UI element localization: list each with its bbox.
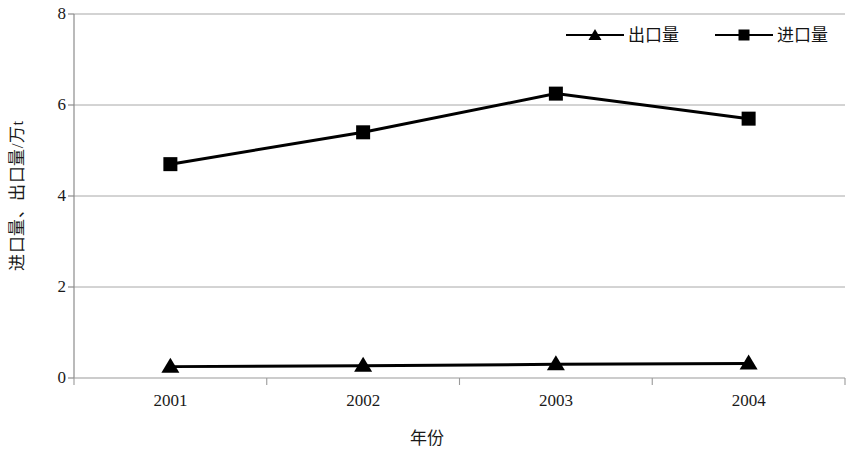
gridlines <box>74 14 845 287</box>
data-series-layer <box>161 87 757 373</box>
data-point-square <box>549 87 563 101</box>
x-axis-title-text: 年份 <box>410 429 444 448</box>
legend-item-import: 进口量 <box>715 26 828 44</box>
chart-legend: 出口量 进口量 <box>566 26 828 44</box>
x-tick-label: 2002 <box>346 392 380 409</box>
data-point-square <box>742 112 756 126</box>
data-point-square <box>356 125 370 139</box>
legend-label-import: 进口量 <box>777 27 828 44</box>
legend-item-export: 出口量 <box>566 26 679 44</box>
square-marker-icon <box>715 26 773 44</box>
x-tick-label: 2004 <box>732 392 766 409</box>
legend-label-export: 出口量 <box>628 27 679 44</box>
line-chart-figure: 进口量、出口量/万t 86420 出口量 进口量 20012 <box>0 0 854 452</box>
x-axis-ticks <box>74 378 845 385</box>
series-line <box>170 363 748 366</box>
plot-area <box>0 0 854 452</box>
x-axis-title: 年份 <box>0 424 854 449</box>
series-line <box>170 94 748 165</box>
data-point-triangle <box>740 354 758 369</box>
x-tick-label: 2003 <box>539 392 573 409</box>
x-axis-tick-labels: 2001200220032004 <box>0 392 854 416</box>
triangle-marker-icon <box>566 26 624 44</box>
x-tick-label: 2001 <box>153 392 187 409</box>
data-point-square <box>163 157 177 171</box>
